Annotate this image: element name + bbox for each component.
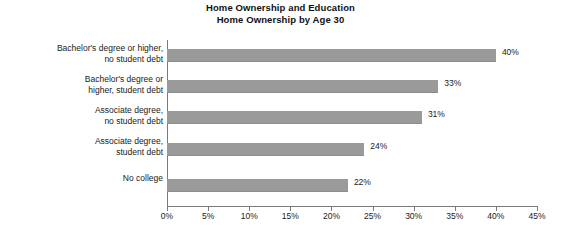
x-axis-tick-label: 45% (517, 211, 557, 221)
x-axis-tick-label: 25% (353, 211, 393, 221)
category-label: Bachelor's degree or higher, no student … (3, 43, 163, 64)
chart-title-line-1: Home Ownership and Education (0, 2, 561, 14)
bar-row: 24% (167, 134, 561, 165)
bar-value-label: 40% (502, 47, 519, 57)
bar-value-label: 33% (444, 78, 461, 88)
plot-area: 40% 33% 31% 24% 22% (167, 40, 537, 206)
bar-chart: Home Ownership and Education Home Owners… (0, 0, 561, 226)
category-label: Associate degree, no student debt (3, 105, 163, 126)
bar (167, 80, 438, 93)
chart-title: Home Ownership and Education Home Owners… (0, 2, 561, 26)
x-axis-tick-label: 10% (229, 211, 269, 221)
bar-value-label: 24% (370, 141, 387, 151)
category-label: Bachelor's degree or higher, student deb… (3, 74, 163, 95)
bar (167, 49, 496, 62)
category-axis-labels: Bachelor's degree or higher, no student … (0, 40, 163, 206)
x-axis-tick-label: 5% (188, 211, 228, 221)
bar-value-label: 31% (428, 109, 445, 119)
x-axis-tick-label: 30% (394, 211, 434, 221)
chart-title-line-2: Home Ownership by Age 30 (0, 14, 561, 26)
x-axis-tick-label: 35% (435, 211, 475, 221)
bar-row: 40% (167, 40, 561, 71)
x-axis-line (167, 206, 538, 207)
bar-row: 31% (167, 102, 561, 133)
bar (167, 179, 348, 192)
x-axis-tick-label: 40% (476, 211, 516, 221)
category-label: Associate degree, student debt (3, 136, 163, 157)
x-axis-tick-label: 20% (311, 211, 351, 221)
bar (167, 143, 364, 156)
x-axis-tick-label: 0% (147, 211, 187, 221)
bar (167, 111, 422, 124)
bar-row: 22% (167, 170, 561, 201)
category-label: No college (3, 173, 163, 184)
x-axis-tick-label: 15% (270, 211, 310, 221)
bar-row: 33% (167, 71, 561, 102)
bar-value-label: 22% (354, 177, 371, 187)
